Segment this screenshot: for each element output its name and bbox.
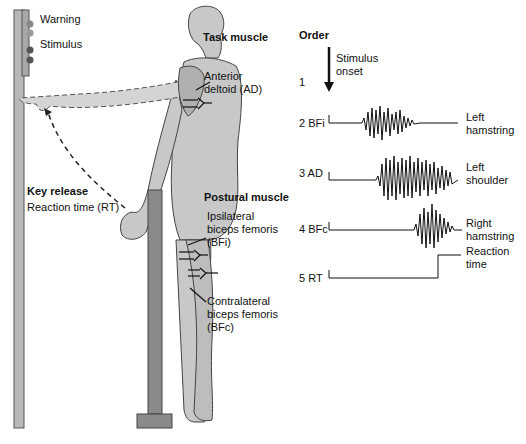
left-hamstring-label-2: hamstring [466, 124, 514, 137]
left-shoulder-label-1: Left [466, 161, 484, 174]
anterior-deltoid-label-1: Anterior [204, 70, 243, 83]
key-release-title: Key release [27, 185, 88, 198]
stimulus-label: Stimulus [40, 38, 82, 51]
reaction-time-trace-label-2: time [466, 258, 487, 271]
bfc-label-2: biceps femoris [207, 308, 278, 321]
emg-traces [329, 106, 462, 278]
order-row-2: 2 BFi [299, 117, 325, 130]
bfc-label-1: Contralateral [207, 295, 270, 308]
stimulus-light-icon [27, 47, 34, 54]
task-muscle-title: Task muscle [203, 31, 268, 44]
order-row-3: 3 AD [299, 167, 323, 180]
stimulus-onset-2: onset [336, 65, 363, 78]
order-row-5: 5 RT [299, 272, 323, 285]
bfi-label-1: Ipsilateral [207, 210, 254, 223]
left-shoulder-label-2: shoulder [466, 174, 508, 187]
signal-stand [14, 10, 34, 428]
diagram-canvas [0, 0, 526, 444]
right-hamstring-label-1: Right [466, 217, 492, 230]
bfc-label-3: (BFc) [207, 321, 234, 334]
anterior-deltoid-label-2: deltoid (AD) [204, 83, 262, 96]
order-title: Order [299, 29, 329, 42]
reaction-time-label: Reaction time (RT) [27, 201, 119, 214]
bfi-label-3: (BFi) [207, 236, 231, 249]
left-hamstring-label-1: Left [466, 111, 484, 124]
order-row-1-index: 1 [299, 76, 305, 89]
postural-muscle-title: Postural muscle [204, 191, 289, 204]
warning-label: Warning [40, 13, 81, 26]
reaction-time-trace-label-1: Reaction [466, 245, 509, 258]
order-row-4: 4 BFc [299, 223, 328, 236]
right-hamstring-label-2: hamstring [466, 230, 514, 243]
arrow-down-icon [324, 82, 334, 92]
bfi-label-2: biceps femoris [207, 223, 278, 236]
warning-light-icon [27, 21, 34, 28]
arrowhead-icon [44, 108, 52, 116]
stimulus-onset-1: Stimulus [336, 52, 378, 65]
